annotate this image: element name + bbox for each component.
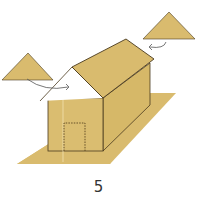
gable-triangle-left [2, 53, 53, 80]
house-diagram [0, 0, 197, 201]
step-number: 5 [0, 178, 197, 196]
gable-triangle-right [143, 12, 195, 39]
house-front-wall [48, 98, 103, 151]
arrow-right-to-gable [150, 42, 166, 47]
